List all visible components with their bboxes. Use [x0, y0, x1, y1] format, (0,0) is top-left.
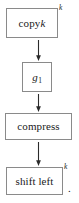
arrow-down-icon-copy-to-g1	[33, 40, 44, 61]
trailing-period: .	[68, 183, 71, 194]
node-copy-exponent: k	[59, 4, 62, 12]
node-copy-variable: k	[40, 17, 45, 29]
arrow-down-icon-compress-to-shift	[33, 142, 44, 166]
node-g1-subscript: 1	[38, 76, 42, 85]
node-compress: compress	[5, 113, 72, 140]
arrow-down-icon-g1-to-compress	[33, 94, 44, 112]
node-g1: g1	[22, 62, 52, 92]
node-shift-left-label: shift left	[16, 176, 54, 187]
node-g1-label: g1	[32, 72, 41, 83]
diagram-canvas: copyk k g1 compress shift left k .	[0, 0, 79, 203]
node-shift-left-exponent: k	[64, 163, 67, 171]
node-shift-left: shift left	[6, 167, 63, 195]
node-copy-label-text: copy	[19, 17, 41, 29]
node-copy-label: copyk	[19, 18, 46, 29]
node-copy: copyk	[6, 8, 58, 38]
node-compress-label: compress	[17, 121, 59, 132]
